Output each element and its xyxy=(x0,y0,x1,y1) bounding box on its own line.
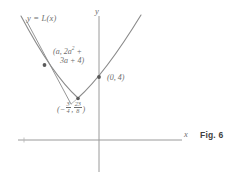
tangent-point-label: (a, 2a2 + 3a + 4) xyxy=(53,47,105,65)
vertex-x-fraction: 34 xyxy=(66,101,71,114)
parabola-plot xyxy=(0,0,241,178)
figure-6: y = L(x) y x (a, 2a2 + 3a + 4) (0, 4) (−… xyxy=(0,0,241,178)
figure-caption: Fig. 6 xyxy=(200,130,223,140)
tangent-point-marker xyxy=(43,63,47,67)
x-axis-label: x xyxy=(184,130,188,140)
vertex-label-open: (− xyxy=(57,105,65,114)
vertex-label: (−34,238) xyxy=(57,101,85,114)
y-axis-label: y xyxy=(95,7,99,17)
vertex-x-denominator: 4 xyxy=(66,108,71,114)
vertex-label-close: ) xyxy=(82,105,85,114)
y-intercept-marker xyxy=(97,75,101,79)
tangent-point-text-plus: + xyxy=(74,47,81,56)
y-intercept-label: (0, 4) xyxy=(107,73,124,82)
tangent-point-text-tail: 3a + 4) xyxy=(53,56,105,65)
tangent-line-label: y = L(x) xyxy=(27,14,57,24)
tangent-point-text-head: (a, 2a xyxy=(53,47,72,56)
vertex-y-fraction: 238 xyxy=(74,101,82,114)
vertex-y-denominator: 8 xyxy=(74,108,82,114)
